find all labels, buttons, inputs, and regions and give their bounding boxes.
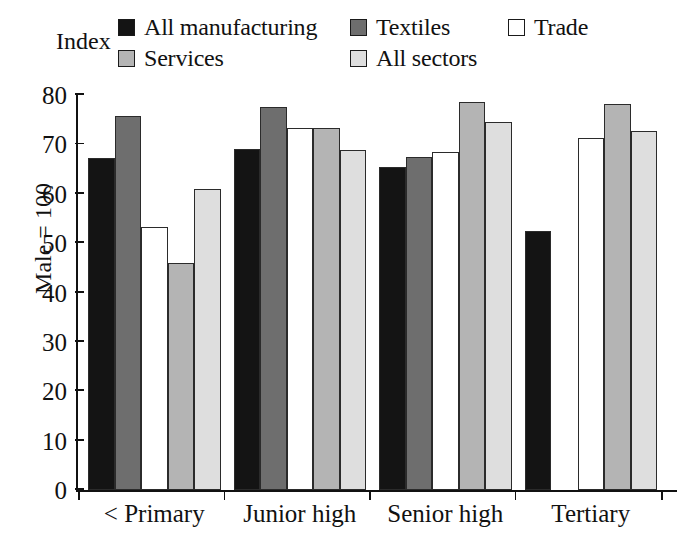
legend-swatch-all-manufacturing — [118, 19, 135, 36]
y-tick-mark — [75, 192, 84, 194]
y-tick-mark — [75, 340, 84, 342]
bar — [194, 189, 221, 490]
legend-item-trade: Trade — [508, 12, 588, 42]
bar — [379, 167, 406, 490]
legend-label-all-sectors: All sectors — [376, 45, 477, 71]
y-tick-label: 10 — [42, 428, 67, 453]
legend-swatch-services — [118, 50, 135, 67]
legend-swatch-trade — [508, 19, 525, 36]
bar — [340, 150, 367, 490]
y-tick-label: 80 — [42, 83, 67, 108]
bar — [631, 131, 658, 490]
y-tick-mark — [75, 488, 84, 490]
bar — [406, 157, 433, 490]
legend-swatch-all-sectors — [350, 50, 367, 67]
x-axis-category-label: Tertiary — [551, 500, 630, 527]
legend-item-all-sectors: All sectors — [350, 43, 477, 73]
chart-figure: All manufacturing Textiles Trade Service… — [0, 0, 693, 547]
bar — [313, 128, 340, 490]
y-tick-label: 20 — [42, 379, 67, 404]
chart-legend: All manufacturing Textiles Trade Service… — [118, 12, 658, 74]
bar — [604, 104, 631, 490]
legend-label-trade: Trade — [534, 14, 588, 40]
x-axis-category-label: Junior high — [243, 500, 356, 527]
x-axis-category-label: Senior high — [387, 500, 503, 527]
x-axis-tick — [369, 491, 371, 500]
bar — [578, 138, 605, 490]
x-axis-line — [76, 490, 677, 492]
y-axis-line — [76, 93, 78, 492]
bar — [260, 107, 287, 490]
bar — [432, 152, 459, 490]
x-axis-tick — [661, 491, 663, 500]
legend-item-all-manufacturing: All manufacturing — [118, 12, 317, 42]
y-tick-label: 50 — [42, 231, 67, 256]
x-axis-tick — [224, 491, 226, 500]
legend-label-all-manufacturing: All manufacturing — [144, 14, 317, 40]
legend-row-1: All manufacturing Textiles Trade — [118, 12, 658, 42]
y-tick-label: 30 — [42, 329, 67, 354]
legend-item-textiles: Textiles — [350, 12, 450, 42]
legend-label-services: Services — [144, 45, 224, 71]
plot-area: 01020304050607080 — [76, 95, 677, 490]
legend-row-2: Services All sectors — [118, 43, 658, 73]
y-tick-label: 60 — [42, 181, 67, 206]
bar — [88, 158, 115, 490]
x-axis-tick — [78, 491, 80, 500]
x-axis-tick — [515, 491, 517, 500]
index-annotation: Index — [56, 28, 111, 54]
y-tick-label: 70 — [42, 132, 67, 157]
y-tick-label: 40 — [42, 280, 67, 305]
y-tick-mark — [75, 291, 84, 293]
y-tick-mark — [75, 389, 84, 391]
y-tick-mark — [75, 439, 84, 441]
bar — [141, 227, 168, 490]
bar — [234, 149, 261, 490]
x-axis-category-label: < Primary — [104, 500, 205, 527]
bar — [459, 102, 486, 490]
legend-item-services: Services — [118, 43, 224, 73]
y-tick-label: 0 — [55, 478, 68, 503]
y-tick-mark — [75, 143, 84, 145]
bar — [525, 231, 552, 490]
bar — [168, 263, 195, 490]
y-tick-mark — [75, 93, 84, 95]
bar — [287, 128, 314, 490]
bar — [485, 122, 512, 490]
legend-label-textiles: Textiles — [376, 14, 450, 40]
y-tick-mark — [75, 241, 84, 243]
legend-swatch-textiles — [350, 19, 367, 36]
bar — [115, 116, 142, 490]
